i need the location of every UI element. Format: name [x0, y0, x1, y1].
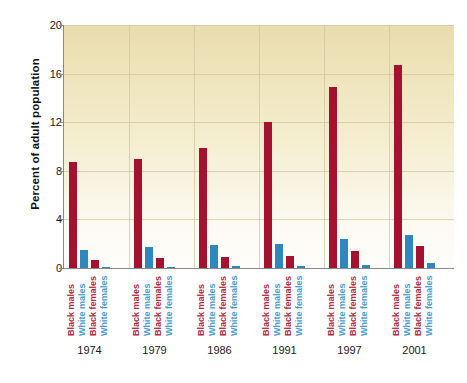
year-label-1986: 1986: [207, 345, 231, 356]
bar-white-females-2001[interactable]: [427, 263, 435, 268]
year-label-1991: 1991: [272, 345, 296, 356]
plot-area: [64, 25, 454, 268]
bar-black-females-2001[interactable]: [416, 246, 424, 268]
bar-white-females-1997[interactable]: [362, 265, 370, 268]
bar-black-males-1979[interactable]: [134, 159, 142, 268]
category-label-white-males: White males: [208, 283, 217, 336]
year-label-1979: 1979: [142, 345, 166, 356]
bar-white-females-1979[interactable]: [167, 267, 175, 268]
gridline-vertical: [259, 25, 260, 268]
category-label-black-males: Black males: [67, 284, 76, 336]
category-label-black-females: Black females: [89, 276, 98, 336]
category-label-white-females: White females: [165, 275, 174, 336]
bar-black-males-1997[interactable]: [329, 87, 337, 268]
category-label-black-females: Black females: [349, 276, 358, 336]
y-axis-tick-mark: [59, 171, 64, 172]
y-axis-tick-mark: [59, 122, 64, 123]
bar-white-females-1986[interactable]: [232, 266, 240, 268]
category-label-white-males: White males: [403, 283, 412, 336]
bar-black-females-1979[interactable]: [156, 258, 164, 268]
y-axis-tick-mark: [59, 74, 64, 75]
bar-white-males-1997[interactable]: [340, 239, 348, 268]
bar-white-males-2001[interactable]: [405, 235, 413, 268]
bar-chart-figure: Percent of adult population 048121620 Bl…: [0, 0, 467, 383]
bar-black-females-1974[interactable]: [91, 260, 99, 269]
category-label-white-males: White males: [338, 283, 347, 336]
y-axis-tick-mark: [59, 25, 64, 26]
bar-black-females-1991[interactable]: [286, 256, 294, 268]
bar-white-males-1991[interactable]: [275, 244, 283, 268]
category-label-white-females: White females: [360, 275, 369, 336]
category-label-black-females: Black females: [414, 276, 423, 336]
category-label-black-males: Black males: [327, 284, 336, 336]
category-label-white-females: White females: [230, 275, 239, 336]
x-axis-line: [63, 268, 454, 269]
bar-black-females-1997[interactable]: [351, 251, 359, 268]
bar-white-females-1991[interactable]: [297, 266, 305, 268]
bar-white-females-1974[interactable]: [102, 267, 110, 268]
bar-white-males-1986[interactable]: [210, 245, 218, 268]
category-label-black-males: Black males: [132, 284, 141, 336]
year-label-1997: 1997: [337, 345, 361, 356]
y-axis-tick-mark: [59, 268, 64, 269]
category-labels-group: Black malesWhite malesBlack femalesWhite…: [0, 270, 467, 336]
bar-white-males-1979[interactable]: [145, 247, 153, 268]
gridline-vertical: [389, 25, 390, 268]
category-label-black-males: Black males: [262, 284, 271, 336]
category-label-white-females: White females: [100, 275, 109, 336]
bar-black-males-2001[interactable]: [394, 65, 402, 268]
category-label-black-females: Black females: [219, 276, 228, 336]
gridline-vertical: [324, 25, 325, 268]
category-label-black-males: Black males: [197, 284, 206, 336]
category-label-white-males: White males: [273, 283, 282, 336]
bar-black-males-1986[interactable]: [199, 148, 207, 268]
gridline-vertical: [129, 25, 130, 268]
category-label-white-males: White males: [143, 283, 152, 336]
y-axis-tick-mark: [59, 219, 64, 220]
bar-white-males-1974[interactable]: [80, 250, 88, 268]
category-label-black-males: Black males: [392, 284, 401, 336]
year-label-1974: 1974: [77, 345, 101, 356]
bar-black-males-1974[interactable]: [69, 162, 77, 268]
category-label-black-females: Black females: [284, 276, 293, 336]
category-label-white-males: White males: [78, 283, 87, 336]
gridline-vertical: [194, 25, 195, 268]
category-label-black-females: Black females: [154, 276, 163, 336]
year-labels-group: 197419791986199119972001: [0, 345, 467, 365]
category-label-white-females: White females: [295, 275, 304, 336]
year-label-2001: 2001: [402, 345, 426, 356]
bar-black-females-1986[interactable]: [221, 257, 229, 268]
category-label-white-females: White females: [425, 275, 434, 336]
bar-black-males-1991[interactable]: [264, 122, 272, 268]
